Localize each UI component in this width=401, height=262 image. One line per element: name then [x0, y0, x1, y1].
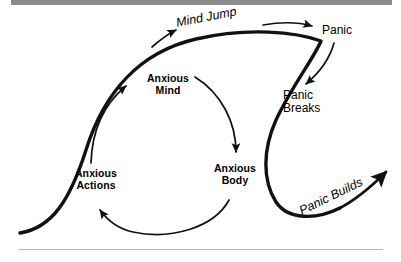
- page-bottom-rule: [18, 249, 383, 250]
- mind-to-body-arrow: [195, 77, 236, 152]
- node-label-anxious-actions: Anxious Actions: [60, 168, 132, 192]
- node-label-anxious-mind: Anxious Mind: [136, 73, 200, 97]
- flow-label-panic-breaks: Panic Breaks: [283, 89, 320, 116]
- body-to-actions-arrow: [100, 200, 229, 234]
- mind-jump-to-panic-arrow: [263, 23, 312, 26]
- diagram-page: Mind Jump Panic Panic Breaks Panic Build…: [0, 0, 401, 262]
- mind-jump-entry-arrow: [152, 30, 176, 47]
- flow-label-panic: Panic: [322, 24, 352, 37]
- main-wave-curve: [20, 32, 340, 233]
- node-label-anxious-body: Anxious Body: [203, 163, 267, 187]
- anxiety-panic-cycle-diagram: [0, 0, 401, 262]
